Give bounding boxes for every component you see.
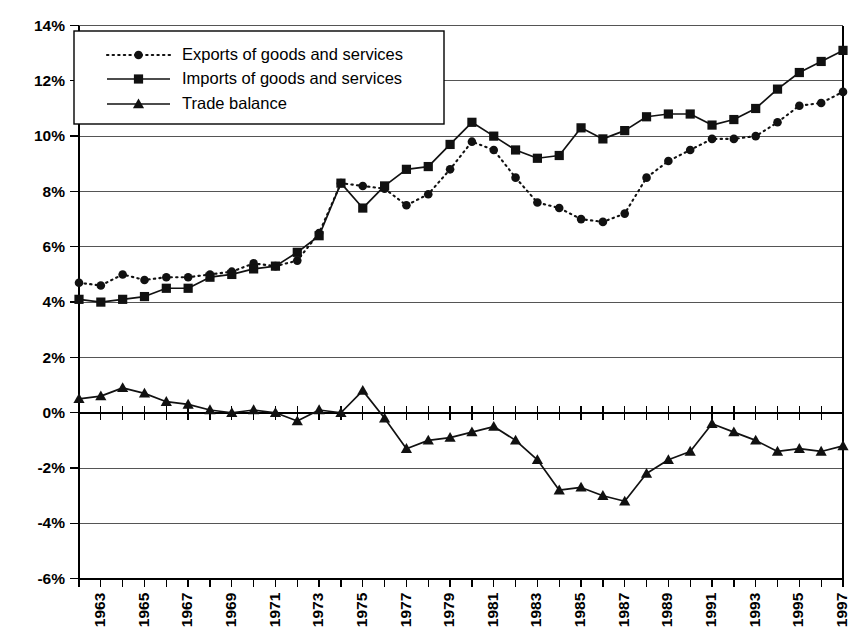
data-point: [533, 154, 542, 163]
y-axis-label: 12%: [34, 72, 65, 89]
x-axis-label: 1991: [702, 592, 719, 627]
y-axis-label: 10%: [34, 127, 65, 144]
data-point: [446, 165, 455, 174]
data-point: [511, 173, 520, 182]
data-point: [75, 278, 84, 287]
data-point: [468, 137, 477, 146]
legend-label: Exports of goods and services: [182, 45, 403, 63]
x-axis-label: 1979: [440, 592, 457, 627]
x-axis-label: 1965: [135, 592, 152, 627]
legend-marker-square: [134, 74, 143, 83]
data-point: [642, 173, 651, 182]
x-axis-label: 1975: [353, 592, 370, 627]
x-axis-label: 1997: [833, 593, 850, 627]
y-axis-label: 8%: [43, 183, 66, 200]
data-point: [817, 57, 826, 66]
data-point: [402, 201, 411, 210]
x-axis-label: 1981: [484, 592, 501, 627]
data-point: [74, 295, 83, 304]
data-point: [751, 104, 760, 113]
data-point: [642, 112, 651, 121]
legend-marker-circle: [134, 51, 143, 60]
data-point: [686, 109, 695, 118]
data-point: [533, 198, 542, 207]
x-axis-label: 1983: [527, 592, 544, 627]
data-point: [577, 215, 586, 224]
data-point: [576, 123, 585, 132]
data-point: [402, 165, 411, 174]
data-point: [795, 101, 804, 110]
series-2: [73, 382, 848, 505]
data-point: [118, 270, 127, 279]
data-point: [620, 126, 629, 135]
legend-label: Trade balance: [182, 94, 287, 112]
x-axis-label: 1993: [746, 592, 763, 627]
y-axis-label: 6%: [43, 238, 66, 255]
data-point: [424, 162, 433, 171]
data-point: [424, 190, 433, 199]
data-point: [445, 140, 454, 149]
data-point: [97, 281, 106, 290]
y-axis-label: 14%: [34, 17, 65, 34]
x-axis-label: 1989: [658, 592, 675, 627]
data-point: [555, 151, 564, 160]
data-point: [511, 145, 520, 154]
data-point: [358, 203, 367, 212]
line-chart: 14%12%10%8%6%4%2%0%-2%-4%-6% 19631965196…: [0, 0, 863, 627]
data-point: [357, 385, 368, 395]
data-point: [489, 146, 498, 155]
data-point: [664, 157, 673, 166]
data-point: [162, 273, 171, 282]
data-point: [773, 118, 782, 127]
chart-legend: Exports of goods and servicesImports of …: [74, 31, 444, 124]
data-point: [839, 88, 848, 97]
data-point: [729, 115, 738, 124]
x-axis-label: 1995: [789, 592, 806, 627]
y-axis-label: 0%: [43, 404, 66, 421]
x-axis-label: 1973: [309, 592, 326, 627]
data-point: [336, 179, 345, 188]
data-point: [751, 132, 760, 141]
data-point: [575, 482, 586, 492]
x-axis-label: 1963: [91, 592, 108, 627]
data-point: [773, 85, 782, 94]
data-point: [706, 418, 717, 428]
data-point: [664, 109, 673, 118]
data-point: [96, 298, 105, 307]
data-point: [140, 276, 149, 285]
x-axis-label: 1971: [266, 592, 283, 627]
data-point: [118, 295, 127, 304]
data-point: [555, 204, 564, 213]
data-point: [293, 256, 302, 265]
data-point: [838, 46, 847, 55]
data-point: [293, 248, 302, 257]
data-point: [315, 231, 324, 240]
data-point: [467, 118, 476, 127]
data-point: [795, 68, 804, 77]
data-point: [488, 421, 499, 431]
y-axis-label: 2%: [43, 349, 66, 366]
series-line-2: [79, 388, 843, 501]
x-axis-label: 1977: [397, 593, 414, 627]
chart-container: 14%12%10%8%6%4%2%0%-2%-4%-6% 19631965196…: [0, 0, 863, 627]
data-point: [205, 273, 214, 282]
y-axis-label: -2%: [37, 459, 65, 476]
y-axis-label: -4%: [37, 514, 65, 531]
data-point: [249, 264, 258, 273]
x-axis-label: 1969: [222, 592, 239, 627]
data-point: [730, 135, 739, 144]
data-point: [140, 292, 149, 301]
data-point: [248, 404, 259, 414]
data-point: [314, 404, 325, 414]
legend-label: Imports of goods and services: [182, 69, 402, 87]
data-point: [620, 209, 629, 218]
y-axis-label: -6%: [37, 570, 65, 587]
data-point: [599, 218, 608, 227]
data-point: [271, 262, 280, 271]
data-point: [598, 134, 607, 143]
data-point: [489, 132, 498, 141]
data-point: [707, 120, 716, 129]
y-axis-label: 4%: [43, 293, 66, 310]
data-point: [184, 284, 193, 293]
data-point: [686, 146, 695, 155]
